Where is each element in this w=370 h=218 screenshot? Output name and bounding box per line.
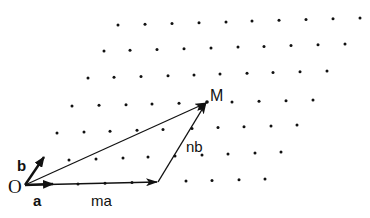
lattice-point — [227, 153, 230, 156]
lattice-point — [151, 103, 154, 106]
lattice-point — [290, 44, 293, 47]
lattice-point — [238, 178, 241, 181]
lattice-point — [263, 45, 266, 48]
lattice-point — [185, 180, 188, 183]
lattice-point — [147, 156, 150, 159]
lattice-point — [254, 152, 257, 155]
lattice-point — [109, 130, 112, 133]
lattice-point — [225, 20, 228, 23]
label-nb: nb — [186, 139, 203, 154]
lattice-point — [305, 18, 308, 21]
lattice-point — [167, 74, 170, 77]
lattice-point — [171, 22, 174, 25]
lattice-point — [317, 43, 320, 46]
label-ma: ma — [91, 193, 112, 208]
lattice-point — [359, 17, 362, 20]
lattice-point — [270, 124, 273, 127]
lattice-point — [332, 17, 335, 20]
lattice-point — [296, 124, 299, 127]
lattice-point — [258, 100, 261, 103]
lattice-point — [144, 23, 147, 26]
lattice-point — [56, 132, 59, 135]
label-origin: O — [8, 177, 22, 196]
lattice-point — [278, 19, 281, 22]
lattice-point — [98, 104, 101, 107]
vector-om — [25, 103, 206, 185]
lattice-point — [156, 48, 159, 51]
lattice-point — [211, 179, 214, 182]
lattice-point — [87, 77, 90, 80]
lattice-point — [129, 49, 132, 52]
lattice-point — [113, 76, 116, 79]
lattice-point — [344, 43, 347, 46]
vector-a — [25, 184, 53, 185]
lattice-point — [312, 99, 315, 102]
lattice-point — [272, 71, 275, 74]
label-point-m: M — [210, 88, 223, 104]
lattice-point — [83, 131, 86, 134]
lattice-point — [264, 178, 267, 181]
lattice-points — [56, 17, 362, 186]
lattice-point — [243, 125, 246, 128]
lattice-point — [95, 158, 98, 161]
lattice-point — [103, 50, 106, 53]
lattice-point — [237, 46, 240, 49]
lattice-point — [217, 126, 220, 129]
lattice-point — [326, 70, 329, 73]
label-vector-b: b — [17, 158, 26, 173]
lattice-point — [71, 105, 74, 108]
lattice-diagram — [0, 0, 370, 218]
lattice-point — [219, 73, 222, 76]
lattice-point — [285, 99, 288, 102]
lattice-point — [183, 47, 186, 50]
lattice-point — [246, 72, 249, 75]
lattice-point — [280, 151, 283, 154]
label-vector-a: a — [33, 193, 41, 208]
lattice-point — [140, 75, 143, 78]
lattice-point — [251, 20, 254, 23]
lattice-point — [122, 157, 125, 160]
lattice-point — [231, 101, 234, 104]
lattice-point — [210, 46, 213, 49]
lattice-point — [193, 73, 196, 76]
lattice-point — [117, 24, 120, 27]
lattice-point — [178, 102, 181, 105]
lattice-point — [299, 70, 302, 73]
lattice-point — [162, 128, 165, 131]
lattice-point — [198, 21, 201, 24]
lattice-point — [68, 159, 71, 162]
point-m — [205, 100, 209, 104]
lattice-point — [136, 129, 139, 132]
lattice-point — [125, 103, 128, 106]
